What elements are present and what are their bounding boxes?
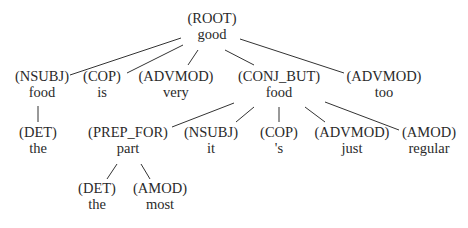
tree-edge xyxy=(107,164,117,179)
tree-node: (NSUBJ)it xyxy=(184,124,238,156)
node-word: is xyxy=(97,84,107,100)
tree-edge xyxy=(188,50,198,65)
node-relation-label: (COP) xyxy=(83,68,121,85)
tree-edge xyxy=(236,107,254,122)
tree-node: (ADVMOD)just xyxy=(315,124,390,156)
tree-edges xyxy=(38,38,399,179)
node-word: food xyxy=(266,84,293,100)
node-word: food xyxy=(29,84,56,100)
tree-node: (AMOD)regular xyxy=(402,124,456,156)
node-relation-label: (AMOD) xyxy=(133,180,187,197)
tree-node: (AMOD)most xyxy=(133,180,187,212)
node-relation-label: (PREP_FOR) xyxy=(88,124,168,141)
node-word: most xyxy=(146,196,174,212)
tree-edge xyxy=(305,107,325,122)
node-word: regular xyxy=(408,140,449,156)
dependency-tree: (ROOT)good(NSUBJ)food(COP)is(ADVMOD)very… xyxy=(0,0,468,228)
node-word: very xyxy=(163,84,190,100)
node-relation-label: (COP) xyxy=(260,124,298,141)
node-relation-label: (ADVMOD) xyxy=(315,124,390,141)
tree-node: (ADVMOD)very xyxy=(139,68,214,100)
tree-edge xyxy=(141,164,150,179)
node-word: too xyxy=(375,84,394,100)
node-word: part xyxy=(117,140,140,156)
node-word: the xyxy=(88,196,106,212)
node-relation-label: (DET) xyxy=(19,124,57,141)
node-relation-label: (ROOT) xyxy=(187,10,236,27)
node-word: it xyxy=(207,140,215,156)
node-word: 's xyxy=(275,140,284,156)
node-relation-label: (NSUBJ) xyxy=(15,68,69,85)
node-relation-label: (DET) xyxy=(78,180,116,197)
tree-edge xyxy=(225,50,254,65)
tree-node: (PREP_FOR)part xyxy=(88,124,168,156)
tree-nodes: (ROOT)good(NSUBJ)food(COP)is(ADVMOD)very… xyxy=(15,10,456,212)
node-relation-label: (ADVMOD) xyxy=(347,68,422,85)
node-relation-label: (ADVMOD) xyxy=(139,68,214,85)
node-word: just xyxy=(341,140,363,156)
node-relation-label: (CONJ_BUT) xyxy=(238,68,320,85)
node-word: the xyxy=(29,140,47,156)
node-word: good xyxy=(198,26,228,42)
node-relation-label: (NSUBJ) xyxy=(184,124,238,141)
tree-node: (ADVMOD)too xyxy=(347,68,422,100)
tree-node: (ROOT)good xyxy=(187,10,236,42)
tree-node: (NSUBJ)food xyxy=(15,68,69,100)
tree-node: (COP)is xyxy=(83,68,121,100)
node-relation-label: (AMOD) xyxy=(402,124,456,141)
tree-node: (DET)the xyxy=(19,124,57,156)
tree-node: (CONJ_BUT)food xyxy=(238,68,320,100)
tree-node: (COP)'s xyxy=(260,124,298,156)
tree-node: (DET)the xyxy=(78,180,116,212)
